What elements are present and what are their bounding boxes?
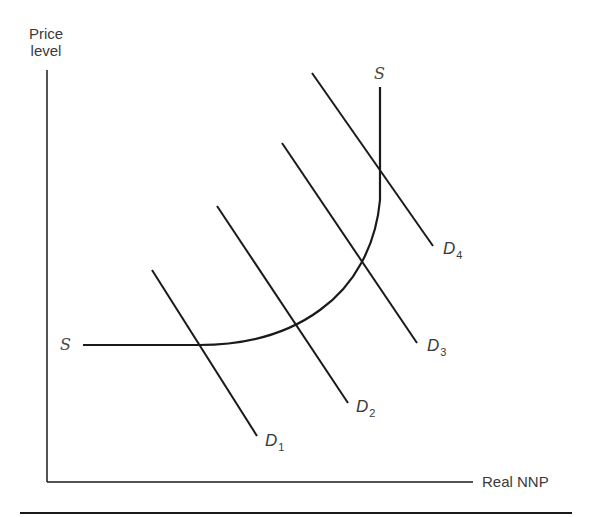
demand-label-d3-sub: 3 <box>440 346 446 358</box>
y-axis-title-line2: level <box>24 42 68 59</box>
demand-label-d4: D4 <box>443 240 462 264</box>
demand-label-d2-letter: D <box>356 397 368 416</box>
supply-label-left: S <box>60 337 71 353</box>
demand-label-d4-sub: 4 <box>456 249 462 261</box>
demand-label-d3-letter: D <box>427 336 439 355</box>
y-axis-title: Price level <box>24 25 68 59</box>
demand-curve-d3 <box>282 143 417 343</box>
supply-label-top: S <box>374 66 385 82</box>
demand-curve-d1 <box>152 270 257 436</box>
demand-label-d1-letter: D <box>265 431 277 450</box>
demand-label-d3: D3 <box>427 337 446 361</box>
demand-label-d4-letter: D <box>443 239 455 258</box>
demand-label-d2: D2 <box>356 398 375 422</box>
diagram-canvas <box>0 0 597 517</box>
supply-curve <box>83 87 380 345</box>
demand-curve-d4 <box>312 73 433 246</box>
as-ad-diagram: Price level Real NNP S S D1 D2 D3 D4 <box>0 0 597 517</box>
demand-label-d2-sub: 2 <box>369 407 375 419</box>
demand-label-d1: D1 <box>265 432 284 456</box>
x-axis-title: Real NNP <box>482 473 549 490</box>
demand-label-d1-sub: 1 <box>278 441 284 453</box>
y-axis-title-line1: Price <box>24 25 68 42</box>
